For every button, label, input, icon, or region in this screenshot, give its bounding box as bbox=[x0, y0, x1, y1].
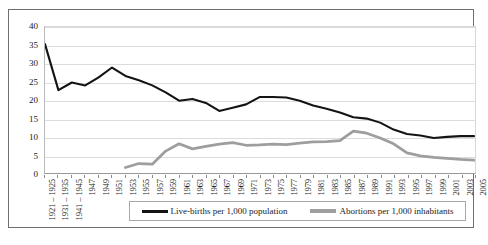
x-axis-tick bbox=[327, 175, 328, 178]
x-axis-tick-label: 1987 bbox=[358, 179, 367, 196]
x-axis-tick bbox=[408, 175, 409, 178]
x-axis-tick-label: 1989 bbox=[371, 179, 380, 196]
chart-frame: 0510152025303540 1921 – 19251931 – 19351… bbox=[8, 9, 474, 228]
y-axis-tick-label: 25 bbox=[29, 77, 38, 86]
y-axis-tick-label: 15 bbox=[29, 114, 38, 123]
x-axis-tick-label: 1957 bbox=[156, 179, 165, 196]
x-axis-tick bbox=[260, 175, 261, 178]
x-axis-tick-label: 1963 bbox=[196, 179, 205, 196]
series-lines bbox=[45, 27, 475, 173]
x-axis-tick bbox=[125, 175, 126, 178]
x-axis-tick bbox=[340, 175, 341, 178]
x-axis-tick bbox=[421, 175, 422, 178]
x-axis-tick-label: 1949 bbox=[102, 179, 111, 196]
y-axis-tick-label: 40 bbox=[29, 22, 38, 31]
x-axis-tick bbox=[84, 175, 85, 178]
x-axis-tick bbox=[138, 175, 139, 178]
legend-entry-live-births: Live-births per 1,000 population bbox=[142, 206, 288, 216]
x-axis-tick bbox=[71, 175, 72, 178]
x-axis-tick-label: 1997 bbox=[425, 179, 434, 196]
x-axis-tick bbox=[165, 175, 166, 178]
chart-legend: Live-births per 1,000 population Abortio… bbox=[129, 201, 466, 221]
legend-swatch-icon bbox=[142, 210, 168, 213]
x-axis-tick bbox=[44, 175, 45, 178]
x-axis-tick bbox=[435, 175, 436, 178]
x-axis-tick-label: 1955 bbox=[142, 179, 151, 196]
x-axis-tick bbox=[219, 175, 220, 178]
x-axis-tick-label: 1953 bbox=[129, 179, 138, 196]
x-axis-tick bbox=[313, 175, 314, 178]
x-axis-tick bbox=[152, 175, 153, 178]
y-axis-tick-label: 10 bbox=[29, 133, 38, 142]
x-axis-tick-label: 1993 bbox=[398, 179, 407, 196]
x-axis-tick bbox=[233, 175, 234, 178]
x-axis-tick-label: 1985 bbox=[344, 179, 353, 196]
x-axis-tick bbox=[246, 175, 247, 178]
x-axis-tick-label: 1999 bbox=[439, 179, 448, 196]
x-axis-tick bbox=[475, 175, 476, 178]
x-axis-tick-label: 1979 bbox=[304, 179, 313, 196]
x-axis-tick-label: 1965 bbox=[210, 179, 219, 196]
x-axis-tick-label: 1971 bbox=[250, 179, 259, 196]
x-axis-tick-label: 1961 bbox=[183, 179, 192, 196]
legend-label-abortions: Abortions per 1,000 inhabitants bbox=[339, 206, 453, 216]
x-axis-tick-label: 1941 – 1945 bbox=[75, 179, 84, 220]
x-axis-tick-label: 2005 bbox=[479, 179, 488, 196]
x-axis-tick-label: 1975 bbox=[277, 179, 286, 196]
x-axis-tick bbox=[57, 175, 58, 178]
x-axis-tick-label: 1995 bbox=[412, 179, 421, 196]
x-axis-tick-label: 1969 bbox=[237, 179, 246, 196]
x-axis-tick-label: 1959 bbox=[169, 179, 178, 196]
x-axis-tick-label: 1991 bbox=[385, 179, 394, 196]
x-axis-tick bbox=[192, 175, 193, 178]
y-axis-tick-label: 20 bbox=[29, 96, 38, 105]
legend-label-live-births: Live-births per 1,000 population bbox=[171, 206, 288, 216]
y-axis-tick-label: 35 bbox=[29, 40, 38, 49]
x-axis-tick bbox=[354, 175, 355, 178]
x-axis-tick bbox=[179, 175, 180, 178]
y-axis: 0510152025303540 bbox=[9, 26, 42, 174]
x-axis-tick bbox=[98, 175, 99, 178]
x-axis-tick-label: 1967 bbox=[223, 179, 232, 196]
x-axis-tick-label: 1973 bbox=[264, 179, 273, 196]
x-axis-tick-label: 1981 bbox=[317, 179, 326, 196]
x-axis-tick-label: 1983 bbox=[331, 179, 340, 196]
x-axis-tick-label: 1931 – 1935 bbox=[61, 179, 70, 220]
x-axis-tick bbox=[300, 175, 301, 178]
x-axis-tick bbox=[206, 175, 207, 178]
x-axis-tick-label: 1951 bbox=[115, 179, 124, 196]
x-axis-tick bbox=[273, 175, 274, 178]
y-axis-tick-label: 30 bbox=[29, 59, 38, 68]
x-axis-tick-label: 1947 bbox=[88, 179, 97, 196]
legend-swatch-icon bbox=[310, 209, 336, 213]
x-axis-tick-label: 2001 bbox=[452, 179, 461, 196]
x-axis-tick bbox=[394, 175, 395, 178]
plot-area bbox=[44, 26, 476, 174]
x-axis-tick-label: 1921 – 1925 bbox=[48, 179, 57, 220]
x-axis-tick-label: 1977 bbox=[290, 179, 299, 196]
x-axis-tick bbox=[367, 175, 368, 178]
legend-entry-abortions: Abortions per 1,000 inhabitants bbox=[310, 206, 453, 216]
x-axis-tick bbox=[462, 175, 463, 178]
x-axis-tick bbox=[381, 175, 382, 178]
y-axis-tick-label: 5 bbox=[34, 151, 39, 160]
x-axis-tick bbox=[286, 175, 287, 178]
line-live-births bbox=[45, 44, 474, 138]
x-axis-tick bbox=[111, 175, 112, 178]
x-axis-tick-label: 2003 bbox=[466, 179, 475, 196]
x-axis-tick bbox=[448, 175, 449, 178]
y-axis-tick-label: 0 bbox=[34, 170, 39, 179]
